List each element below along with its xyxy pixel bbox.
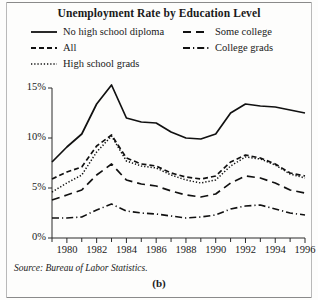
chart-svg [0, 0, 318, 300]
series-line-college-grads [52, 204, 305, 218]
series-line-no-high-school-diploma [52, 85, 305, 162]
y-axis-tick-label: 10% [14, 131, 46, 142]
y-axis-tick-label: 0% [14, 231, 46, 242]
y-axis-tick-label: 5% [14, 181, 46, 192]
figure-panel: Unemployment Rate by Education Level No … [0, 0, 318, 300]
series-line-high-school-grads [52, 136, 305, 192]
x-axis-tick-label: 1996 [288, 244, 318, 255]
panel-label: (b) [0, 277, 318, 289]
chart-plot-area [0, 0, 318, 300]
y-axis-tick-label: 15% [14, 81, 46, 92]
series-line-all [52, 135, 305, 179]
series-line-some-college [52, 164, 305, 200]
source-note: Source: Bureau of Labor Statistics. [14, 263, 148, 273]
